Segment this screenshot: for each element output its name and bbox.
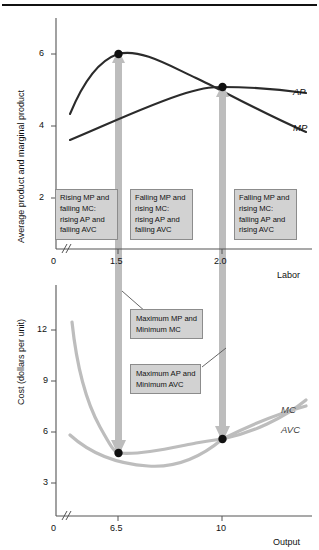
product-xtick-0: 0 [51,256,56,267]
max-ap-min-avc-note: Maximum AP and Minimum AVC [130,364,201,394]
figure-container: Average product and marginal product 6 4… [0,0,319,550]
product-x-ticks [118,249,222,254]
region-3-note-line-1: Falling MP and [239,193,292,204]
ap-curve-label: AP [293,86,306,98]
product-xtick-15: 1.5 [110,256,123,267]
max-ap-min-avc-line-1: Maximum AP and [136,368,195,379]
marker-max-mp [114,50,122,58]
region-1-note-line-4: falling AVC [60,225,113,236]
mp-curve-label: MP [293,122,307,134]
cost-y-axis-label: Cost (dollars per unit) [16,319,27,405]
product-x-axis-label: Labor [277,270,300,281]
max-mp-min-mc-line-1: Maximum MP and [136,313,197,324]
max-mp-min-mc-note: Maximum MP and Minimum MC [130,309,203,339]
marker-ap-mp-intersection [218,83,226,91]
max-ap-min-avc-line-2: Minimum AVC [136,379,195,390]
region-2-note-line-2: rising MC: [135,204,188,215]
region-3-note-line-4: rising AVC [239,225,292,236]
region-2-note-line-1: Falling MP and [135,193,188,204]
cost-y-ticks [51,330,56,483]
cost-xtick-0: 0 [51,523,56,534]
product-ytick-4: 4 [39,120,44,131]
region-2-note: Falling MP and rising MC: rising AP and … [130,189,193,240]
product-ytick-2: 2 [39,192,44,203]
region-2-note-line-4: falling AVC [135,225,188,236]
region-2-note-line-3: rising AP and [135,215,188,226]
cost-ytick-6: 6 [43,426,48,437]
cost-ytick-9: 9 [43,375,48,386]
marker-min-mc [114,449,122,457]
product-y-axis-label: Average product and marginal product [16,90,27,243]
region-1-note-line-3: rising AP and [60,215,113,226]
mc-curve-label: MC [281,404,296,416]
region-1-note-line-1: Rising MP and [60,193,113,204]
product-y-ticks [51,54,56,198]
cost-ytick-12: 12 [37,324,47,335]
cost-xtick-10: 10 [216,523,226,534]
max-mp-min-mc-line-2: Minimum MC [136,324,197,335]
avc-curve-label: AVC [281,424,300,436]
region-1-note-line-2: falling MC: [60,204,113,215]
product-xtick-20: 2.0 [214,256,227,267]
product-ytick-6: 6 [39,48,44,59]
marker-avc-mc-intersection [218,435,226,443]
cost-ytick-3: 3 [43,477,48,488]
figure-svg [0,0,319,550]
region-1-note: Rising MP and falling MC: rising AP and … [55,189,118,240]
region-3-note: Falling MP and rising MC: falling AP and… [234,189,297,240]
region-3-note-line-3: falling AP and [239,215,292,226]
cost-x-axis-label: Output [273,537,300,548]
ap-curve [70,87,306,140]
cost-xtick-65: 6.5 [110,523,123,534]
cost-x-ticks [118,516,222,521]
region-3-note-line-2: rising MC: [239,204,292,215]
